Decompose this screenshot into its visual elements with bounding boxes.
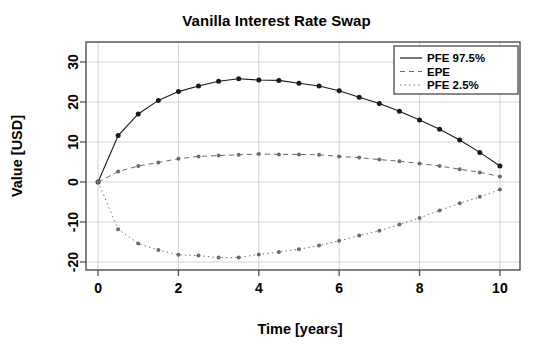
data-point xyxy=(357,95,362,100)
y-tick-label: 0 xyxy=(65,178,81,186)
data-point xyxy=(297,247,301,251)
data-point xyxy=(457,138,462,143)
data-point xyxy=(357,234,361,238)
data-point xyxy=(296,81,301,86)
data-point xyxy=(317,244,321,248)
data-point xyxy=(417,118,422,123)
data-point xyxy=(116,133,121,138)
data-point xyxy=(197,254,201,258)
data-point xyxy=(377,158,381,162)
data-point xyxy=(498,174,502,178)
y-tick-labels: -20-100102030 xyxy=(65,54,81,272)
data-point xyxy=(357,156,361,160)
data-point xyxy=(116,170,120,174)
data-point xyxy=(237,256,241,260)
data-series-group xyxy=(96,76,503,259)
x-tick-label: 4 xyxy=(255,280,263,296)
data-point xyxy=(377,101,382,106)
data-point xyxy=(217,256,221,260)
data-point xyxy=(257,252,261,256)
data-point xyxy=(176,89,181,94)
data-point xyxy=(477,150,482,155)
x-axis-title: Time [years] xyxy=(257,321,342,337)
x-tick-label: 0 xyxy=(94,280,102,296)
x-tick-labels: 0246810 xyxy=(94,280,508,296)
data-point xyxy=(136,242,140,246)
data-point xyxy=(397,109,402,114)
data-point xyxy=(317,84,322,89)
data-point xyxy=(498,188,502,192)
x-tick-label: 6 xyxy=(335,280,343,296)
data-point xyxy=(176,157,180,161)
data-point xyxy=(337,239,341,243)
x-tick-label: 8 xyxy=(416,280,424,296)
data-point xyxy=(257,152,261,156)
y-tick-label: 30 xyxy=(65,54,81,70)
data-point xyxy=(156,160,160,164)
data-point xyxy=(96,180,100,184)
y-tick-label: 20 xyxy=(65,94,81,110)
legend-label-0: PFE 97.5% xyxy=(427,52,485,64)
data-point xyxy=(277,250,281,254)
data-point xyxy=(297,152,301,156)
data-point xyxy=(197,154,201,158)
data-point xyxy=(317,153,321,157)
data-point xyxy=(136,112,141,117)
data-point xyxy=(438,164,442,168)
y-tick-label: -10 xyxy=(65,212,81,232)
plot-canvas: 0246810 -20-100102030 Time [years] Value… xyxy=(0,0,553,346)
data-point xyxy=(116,227,120,231)
data-point xyxy=(397,222,401,226)
data-point xyxy=(478,195,482,199)
legend: PFE 97.5%EPEPFE 2.5% xyxy=(394,46,518,94)
data-point xyxy=(497,164,502,169)
series-line-2 xyxy=(98,182,500,258)
legend-label-2: PFE 2.5% xyxy=(427,79,479,91)
data-point xyxy=(458,167,462,171)
data-point xyxy=(256,78,261,83)
x-tick-label: 2 xyxy=(175,280,183,296)
data-point xyxy=(377,229,381,233)
data-point xyxy=(216,79,221,84)
x-tick-label: 10 xyxy=(492,280,508,296)
data-point xyxy=(217,154,221,158)
data-point xyxy=(237,153,241,157)
data-point xyxy=(276,78,281,83)
data-point xyxy=(337,88,342,93)
data-point xyxy=(196,84,201,89)
data-point xyxy=(277,152,281,156)
y-tick-label: 10 xyxy=(65,134,81,150)
data-point xyxy=(156,248,160,252)
series-line-1 xyxy=(98,154,500,182)
data-point xyxy=(418,216,422,220)
data-point xyxy=(438,208,442,212)
chart-figure: Vanilla Interest Rate Swap 0246810 -20-1… xyxy=(0,0,553,346)
y-tick-label: -20 xyxy=(65,252,81,272)
data-point xyxy=(437,127,442,132)
data-point xyxy=(478,170,482,174)
data-point xyxy=(418,162,422,166)
data-point xyxy=(397,159,401,163)
y-axis-title: Value [USD] xyxy=(9,115,25,197)
data-point xyxy=(176,253,180,257)
data-point xyxy=(236,76,241,81)
data-point xyxy=(337,154,341,158)
data-point xyxy=(156,98,161,103)
data-point xyxy=(458,201,462,205)
data-point xyxy=(136,164,140,168)
legend-label-1: EPE xyxy=(427,66,450,78)
